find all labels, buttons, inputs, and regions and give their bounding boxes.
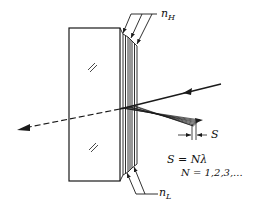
glass-substrate	[69, 28, 120, 181]
equation-spacing: S = Nλ	[167, 154, 207, 165]
thin-film-diagram	[0, 0, 254, 215]
spacing-label: S	[211, 129, 219, 140]
n-high-label: nH	[161, 8, 175, 19]
n-high-subscript: H	[168, 13, 175, 22]
spacing-dimension	[178, 122, 207, 140]
transmitted-arrowhead-icon	[17, 124, 30, 131]
layer-stack	[120, 28, 137, 181]
incident-ray	[120, 84, 221, 109]
n-low-subscript: L	[166, 192, 171, 201]
incident-arrowhead-icon	[183, 88, 192, 95]
n-low-leaders	[127, 167, 158, 194]
reflected-rays	[121, 106, 200, 126]
n-low-label: nL	[159, 187, 171, 198]
equation-order: N = 1,2,3,...	[181, 168, 243, 178]
